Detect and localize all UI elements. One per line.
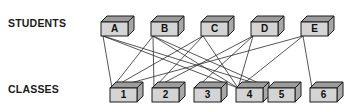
class-node-label: 1 [121,89,127,100]
class-node-1[interactable]: 1 [110,82,143,102]
graph-edge [103,36,112,88]
class-node-3[interactable]: 3 [194,82,227,102]
graph-edge [112,36,203,88]
bipartite-graph-diagram: ABCDE123456 STUDENTS CLASSES [0,0,344,111]
student-node-label: A [111,23,118,34]
class-node-label: 6 [321,89,327,100]
class-node-6[interactable]: 6 [310,82,343,102]
graph-edge [238,36,303,88]
class-node-label: 4 [247,89,253,100]
student-node-label: B [161,23,168,34]
graph-edge [303,36,312,88]
class-node-4[interactable]: 4 [236,82,269,102]
graph-edge [153,36,154,88]
student-node-b[interactable]: B [151,16,184,36]
student-node-label: D [261,23,268,34]
class-node-label: 2 [163,89,169,100]
student-node-d[interactable]: D [251,16,284,36]
student-node-a[interactable]: A [101,16,134,36]
graph-edge [112,36,153,88]
row-label-classes: CLASSES [8,83,59,95]
class-node-label: 3 [205,89,211,100]
edges-layer [103,36,312,88]
row-label-students: STUDENTS [8,17,66,29]
class-node-5[interactable]: 5 [268,82,301,102]
class-node-label: 5 [279,89,285,100]
graph-edge [154,36,253,88]
diagram-canvas: ABCDE123456 STUDENTS CLASSES [0,0,344,111]
class-node-2[interactable]: 2 [152,82,185,102]
student-node-label: C [211,23,218,34]
student-node-e[interactable]: E [301,16,334,36]
graph-edge [112,36,303,88]
student-node-c[interactable]: C [201,16,234,36]
student-node-label: E [311,23,318,34]
